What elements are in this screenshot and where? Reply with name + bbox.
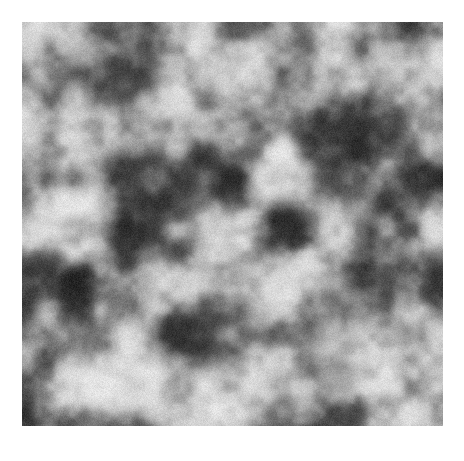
noise-texture-canvas <box>22 22 443 426</box>
figure-root <box>0 0 464 461</box>
noise-texture-panel <box>22 22 443 426</box>
